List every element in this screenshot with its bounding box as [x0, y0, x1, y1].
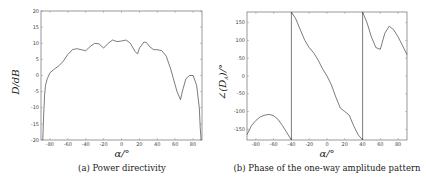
caption: (a) Power directivity	[78, 163, 166, 173]
y-tick-label: 100	[235, 37, 245, 43]
x-tick-label: -20	[305, 141, 313, 147]
y-axis-ticks: -150-100-50050100150	[234, 19, 407, 132]
phase-pattern-chart: -150-100-50050100150 -80-60-40-200204060…	[217, 12, 421, 173]
y-tick-label: -50	[237, 90, 245, 96]
y-tick-label: 15	[33, 24, 39, 30]
x-axis-label: α/°	[319, 148, 334, 159]
y-tick-label: 0	[242, 73, 245, 79]
phase-curve	[247, 12, 407, 140]
y-axis-label: ∠(DA)/°	[217, 64, 229, 100]
x-tick-label: -40	[82, 141, 90, 147]
x-tick-label: 0	[120, 141, 123, 147]
y-tick-label: -5	[34, 88, 39, 94]
y-tick-label: -100	[234, 108, 245, 114]
x-tick-label: -80	[46, 141, 54, 147]
x-axis-ticks: -80-60-40-20020406080	[252, 12, 401, 147]
plot-frame	[41, 11, 202, 140]
x-tick-label: -40	[287, 141, 295, 147]
y-tick-label: -150	[234, 126, 245, 132]
x-tick-label: 0	[325, 141, 328, 147]
y-tick-label: 20	[33, 8, 39, 14]
caption: (b) Phase of the one-way amplitude patte…	[233, 163, 421, 173]
y-tick-label: 150	[235, 19, 245, 25]
x-tick-label: 40	[154, 141, 160, 147]
figure: -20-15-10-505101520 -80-60-40-2002040608…	[0, 0, 426, 179]
y-tick-label: 0	[36, 72, 39, 78]
power-directivity-chart: -20-15-10-505101520 -80-60-40-2002040608…	[10, 8, 202, 173]
y-axis-ticks: -20-15-10-505101520	[31, 8, 202, 143]
y-tick-label: 5	[36, 56, 39, 62]
x-axis-label: α/°	[114, 148, 129, 159]
x-tick-label: -80	[252, 141, 260, 147]
x-tick-label: -20	[100, 141, 108, 147]
y-tick-label: -20	[31, 137, 39, 143]
x-tick-label: 80	[190, 141, 196, 147]
x-tick-label: 60	[377, 141, 383, 147]
y-tick-label: -10	[31, 104, 39, 110]
x-tick-label: -60	[270, 141, 278, 147]
x-tick-label: 40	[359, 141, 365, 147]
x-tick-label: 20	[342, 141, 348, 147]
directivity-curve	[43, 40, 201, 140]
y-tick-label: -15	[31, 121, 39, 127]
y-tick-label: 10	[33, 40, 39, 46]
x-tick-label: 60	[172, 141, 178, 147]
x-tick-label: -60	[64, 141, 72, 147]
x-tick-label: 80	[395, 141, 401, 147]
y-axis-label: D/dB	[10, 69, 21, 95]
x-tick-label: 20	[136, 141, 142, 147]
y-tick-label: 50	[239, 55, 245, 61]
